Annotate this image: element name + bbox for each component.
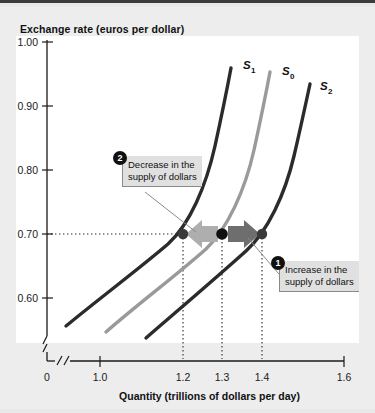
curve-sublabel-S1: 1	[251, 66, 256, 75]
x-axis-break-mark	[57, 356, 69, 365]
y-tick-label-0.90: 0.90	[18, 100, 39, 112]
y-tick-label-0.80: 0.80	[18, 164, 39, 176]
equilibrium-point-1.2	[178, 229, 188, 239]
supply-curve-S2	[146, 84, 310, 338]
annotation-2-line1: Decrease in the	[128, 159, 197, 171]
annotation-badge-1: 1	[271, 256, 285, 270]
x-tick-label-1.6: 1.6	[337, 371, 352, 383]
y-tick-label-1.00: 1.00	[18, 36, 39, 48]
supply-curve-S0	[106, 72, 270, 332]
y-tick-label-0.60: 0.60	[18, 292, 39, 304]
annotation-1-line2: supply of dollars	[285, 276, 354, 288]
y-tick-label-0.70: 0.70	[18, 228, 39, 240]
annotation-1-line1: Increase in the	[285, 264, 354, 276]
y-axis-break-mark	[43, 336, 47, 352]
x-axis-title-wrap: Quantity (trillions of dollars per day)	[0, 390, 375, 402]
x-tick-label-0: 0	[44, 371, 50, 383]
x-tick-label-1.0: 1.0	[93, 371, 108, 383]
annotation-callout-decrease: Decrease in the supply of dollars	[122, 156, 202, 187]
curve-sublabel-S0: 0	[290, 72, 295, 81]
equilibrium-point-1.4	[257, 229, 267, 239]
x-tick-label-1.4: 1.4	[255, 371, 270, 383]
supply-curve-chart: 1.00 0.90 0.80 0.70 0.60 0 1.0 1.2 1.3 1…	[0, 6, 375, 409]
callout-2-leader-line	[145, 192, 196, 232]
equilibrium-point-1.3	[216, 228, 228, 240]
curve-label-S1: S	[243, 59, 251, 71]
curve-sublabel-S2: 2	[328, 87, 333, 96]
top-rule	[0, 0, 375, 3]
x-tick-label-1.3: 1.3	[215, 371, 230, 383]
x-tick-label-1.2: 1.2	[176, 371, 191, 383]
curve-label-S0: S	[282, 65, 290, 77]
annotation-2-line2: supply of dollars	[128, 171, 197, 183]
x-axis-title: Quantity (trillions of dollars per day)	[119, 390, 300, 402]
curve-label-S2: S	[320, 80, 328, 92]
annotation-badge-2: 2	[113, 151, 127, 165]
annotation-callout-increase: Increase in the supply of dollars	[279, 261, 359, 292]
figure-panel: Exchange rate (euros per dollar) 1.00 0.…	[0, 6, 375, 409]
